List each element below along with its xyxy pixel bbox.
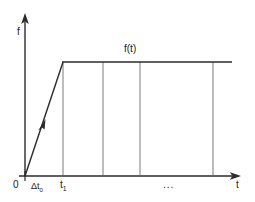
- figure-container: f f(t) 0 Δt0 t1 ... t: [0, 0, 255, 202]
- delta-t0-label: Δt0: [31, 182, 43, 191]
- delta-t0-subscript: 0: [40, 186, 43, 193]
- interval-drop-lines: [63, 62, 213, 176]
- ellipsis-label: ...: [163, 180, 174, 190]
- vertical-axis: [21, 13, 29, 176]
- function-curve: [25, 62, 232, 176]
- function-plot-svg: [0, 0, 255, 202]
- delta-t0-base: Δt: [31, 181, 40, 191]
- curve-ramp-segment: [25, 62, 63, 176]
- t1-tick-label: t1: [60, 180, 67, 190]
- curve-label: f(t): [124, 44, 136, 54]
- t1-subscript: 1: [63, 185, 67, 192]
- vertical-axis-label: f: [17, 27, 20, 37]
- horizontal-axis: [19, 172, 241, 180]
- horizontal-axis-label: t: [236, 180, 239, 190]
- origin-label: 0: [13, 180, 19, 190]
